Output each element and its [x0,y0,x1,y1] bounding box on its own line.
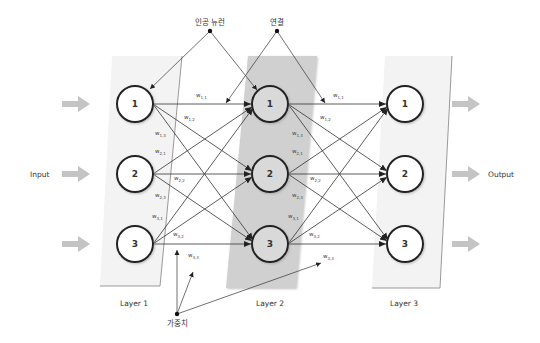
layer-1-label: Layer 1 [120,299,148,308]
neuron-annotation-dot [208,29,212,33]
weight-label-w32: w3,2 [173,231,184,239]
weight-label-l2-w33: w3,3 [323,253,334,261]
layer-2-node-2-label: 2 [267,169,273,179]
layer-1-node-2-label: 2 [132,169,138,179]
neural-network-diagram: 1 2 3 1 2 3 1 2 3 w1,1 w1,2 w1,3 w2,1 w2… [0,0,540,343]
neuron-annotation-label: 인공 뉴런 [195,17,225,27]
input-arrow-1 [62,96,90,112]
weight-label-w12: w1,2 [184,114,195,122]
output-arrow-2 [452,166,480,182]
weight-label-w11: w1,1 [196,92,207,100]
layer-1-node-1-label: 1 [132,99,138,109]
output-arrow-1 [452,96,480,112]
weight-label-l2-w22: w2,2 [310,175,321,183]
layer-1-node-3-label: 3 [132,239,138,249]
weight-label-w22: w2,2 [174,175,185,183]
layer-2-node-1-label: 1 [267,99,273,109]
input-label: Input [30,170,49,179]
layer-3-node-1-label: 1 [402,99,408,109]
weight-annotation-dot [175,312,179,316]
connection-annotation-dot [275,29,279,33]
connection-annotation-label: 연결 [270,17,284,27]
weight-label-w33: w3,3 [188,252,199,260]
layer-3-node-2-label: 2 [402,169,408,179]
output-arrow-3 [452,236,480,252]
weight-label-l2-w11: w1,1 [333,92,344,100]
weight-label-l2-w32: w3,2 [309,231,320,239]
input-arrows [62,96,90,252]
layer-3-node-3-label: 3 [402,239,408,249]
layer-3-label: Layer 3 [390,299,418,308]
weight-label-l2-w12: w1,2 [320,114,331,122]
weight-annotation-label: 가중치 [167,319,188,328]
input-arrow-3 [62,236,90,252]
output-arrows [452,96,480,252]
connections-layer2-to-layer3 [288,104,388,244]
layer-3-nodes: 1 2 3 [387,86,423,262]
output-label: Output [488,170,514,179]
layer-2-nodes: 1 2 3 [252,86,288,262]
layer-2-node-3-label: 3 [267,239,273,249]
input-arrow-2 [62,166,90,182]
layer-2-label: Layer 2 [256,299,284,308]
layer-1-nodes: 1 2 3 [117,86,153,262]
